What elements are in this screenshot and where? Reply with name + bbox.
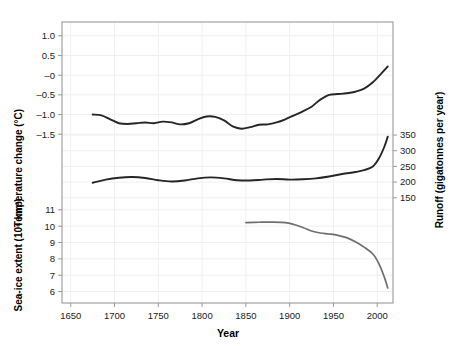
tick-label: 1750 [148,310,169,321]
y-axis-title-runoff: Runoff (gigatonnes per year) [434,92,445,229]
tick-label: 1950 [323,310,344,321]
tick-label: –1.0 [37,109,56,120]
tick-label: 1700 [104,310,125,321]
tick-label: 1900 [279,310,300,321]
tick-label: 7 [50,270,55,281]
tick-label: 10 [44,221,55,232]
tick-label: 1650 [60,310,81,321]
tick-label: 6 [50,286,55,297]
tick-label: –0.5 [37,89,56,100]
y-axis-title-seaice: Sea-ice extent (10⁶ km²) [13,199,24,312]
tick-label: 1800 [192,310,213,321]
chart-figure: 1.00.5–0–0.5–1.0–1.511109876350300250200… [0,0,458,346]
tick-label: 1850 [235,310,256,321]
tick-label: 300 [400,145,416,156]
tick-label: 8 [50,253,55,264]
tick-label: 2000 [367,310,388,321]
x-axis-title: Year [217,327,239,339]
tick-label: 11 [45,204,55,215]
tick-label: 0.5 [42,50,55,61]
tick-label: –0 [44,70,55,81]
tick-label: 9 [50,237,55,248]
tick-label: –1.5 [37,129,56,140]
tick-label: 1.0 [42,30,55,41]
tick-label: 150 [400,192,416,203]
chart-background [0,0,458,346]
tick-label: 200 [400,176,416,187]
tick-label: 250 [400,161,416,172]
tick-label: 350 [400,129,416,140]
multi-panel-timeseries-chart: 1.00.5–0–0.5–1.0–1.511109876350300250200… [0,0,458,346]
